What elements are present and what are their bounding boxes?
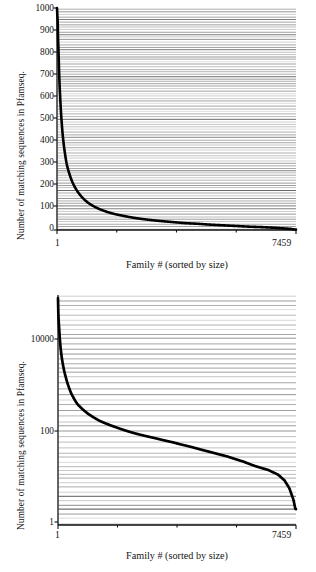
plot-area-linear [0, 0, 316, 286]
plot-area-log [0, 286, 316, 572]
chart-panel-log: Number of matching sequences in Pfamseq.… [0, 286, 316, 572]
chart-panel-linear: Number of matching sequences in Pfamseq.… [0, 0, 316, 286]
